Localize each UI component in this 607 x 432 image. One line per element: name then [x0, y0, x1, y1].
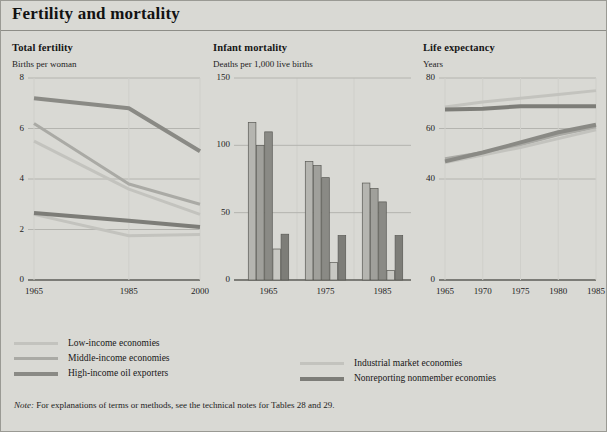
- note-prefix: Note:: [14, 400, 34, 410]
- legend-color-swatch: [300, 362, 344, 365]
- legend-item: Low-income economies: [14, 336, 170, 351]
- bar: [305, 161, 313, 280]
- bar: [248, 122, 256, 280]
- plot-area-life-expectancy: 040608019651970197519801985: [423, 70, 598, 302]
- y-axis-tick-label: 100: [213, 139, 230, 149]
- legend-label: High-income oil exporters: [68, 369, 168, 379]
- legend-color-swatch: [14, 342, 58, 345]
- bar: [371, 188, 379, 280]
- y-axis-tick-label: 0: [423, 274, 435, 284]
- x-axis-tick-label: 1965: [425, 286, 465, 296]
- legend-color-swatch: [300, 377, 344, 381]
- legend-item: Middle-income economies: [14, 351, 170, 366]
- y-axis-tick-label: 0: [12, 274, 24, 284]
- bar: [362, 183, 370, 280]
- x-axis-tick-label: 1975: [301, 286, 351, 296]
- chart-title: Total fertility: [12, 42, 202, 53]
- x-axis-tick-label: 1985: [109, 286, 149, 296]
- y-axis-tick-label: 80: [423, 72, 435, 82]
- y-axis-tick-label: 8: [12, 72, 24, 82]
- x-axis-tick-label: 1980: [538, 286, 578, 296]
- title-divider: [0, 30, 607, 31]
- y-axis-tick-label: 150: [213, 72, 230, 82]
- bar: [387, 271, 395, 280]
- chart-svg: [213, 70, 413, 302]
- chart-title: Life expectancy: [423, 42, 598, 53]
- y-axis-tick-label: 0: [213, 274, 230, 284]
- x-axis-tick-label: 1965: [244, 286, 294, 296]
- bar: [379, 202, 387, 280]
- legend-label: Low-income economies: [68, 339, 160, 349]
- legend-right: Industrial market economiesNonreporting …: [300, 356, 496, 386]
- y-axis-tick-label: 40: [423, 173, 435, 183]
- x-axis-tick-label: 1970: [463, 286, 503, 296]
- legend-color-swatch: [14, 357, 58, 360]
- figure-note: Note: For explanations of terms or metho…: [14, 400, 334, 410]
- chart-svg: [12, 70, 202, 302]
- note-text: For explanations of terms or methods, se…: [34, 400, 334, 410]
- bar: [273, 249, 281, 280]
- chart-title: Infant mortality: [213, 42, 413, 53]
- chart-panel-total-fertility: Total fertility Births per woman 0246819…: [12, 42, 202, 302]
- legend-label: Industrial market economies: [354, 359, 462, 369]
- legend-item: Nonreporting nonmember economies: [300, 371, 496, 386]
- x-axis-tick-label: 1965: [14, 286, 54, 296]
- x-axis-tick-label: 1975: [501, 286, 541, 296]
- y-axis-tick-label: 60: [423, 123, 435, 133]
- chart-ylabel: Years: [423, 59, 598, 69]
- x-axis-tick-label: 1985: [358, 286, 408, 296]
- bar: [281, 234, 289, 280]
- bar: [330, 262, 338, 280]
- plot-area-infant-mortality: 050100150196519751985: [213, 70, 413, 302]
- x-axis-tick-label: 1985: [576, 286, 607, 296]
- chart-ylabel: Births per woman: [12, 59, 202, 69]
- bar: [395, 236, 403, 280]
- chart-ylabel: Deaths per 1,000 live births: [213, 59, 413, 69]
- legend-label: Middle-income economies: [68, 354, 170, 364]
- bar: [322, 178, 330, 280]
- legend-left: Low-income economiesMiddle-income econom…: [14, 336, 170, 381]
- plot-area-total-fertility: 02468196519852000: [12, 70, 202, 302]
- legend-item: Industrial market economies: [300, 356, 496, 371]
- bar: [314, 166, 322, 280]
- bar: [257, 145, 265, 280]
- legend-item: High-income oil exporters: [14, 366, 170, 381]
- y-axis-tick-label: 6: [12, 123, 24, 133]
- chart-panel-life-expectancy: Life expectancy Years 040608019651970197…: [423, 42, 598, 302]
- page-title: Fertility and mortality: [12, 4, 180, 24]
- bar: [338, 236, 346, 280]
- y-axis-tick-label: 2: [12, 224, 24, 234]
- chart-panel-infant-mortality: Infant mortality Deaths per 1,000 live b…: [213, 42, 413, 302]
- y-axis-tick-label: 50: [213, 207, 230, 217]
- chart-svg: [423, 70, 598, 302]
- y-axis-tick-label: 4: [12, 173, 24, 183]
- legend-color-swatch: [14, 372, 58, 376]
- figure-page: Fertility and mortality Total fertility …: [0, 0, 607, 432]
- legend-label: Nonreporting nonmember economies: [354, 374, 496, 384]
- bar: [265, 132, 273, 280]
